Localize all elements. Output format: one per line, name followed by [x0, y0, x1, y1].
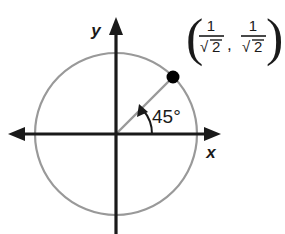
coordinate-separator: , [227, 35, 232, 54]
x-numerator: 1 [207, 17, 215, 34]
unit-circle-figure: y x 45° ( 1 √ 2 , 1 √ 2 ) [0, 0, 285, 234]
coordinate-close-paren: ) [266, 9, 283, 67]
y-numerator: 1 [249, 17, 257, 34]
y-axis-up-arrowhead [109, 17, 123, 35]
coordinate-label: ( 1 √ 2 , 1 √ 2 ) [186, 9, 283, 67]
x-axis-label: x [205, 143, 217, 162]
x-denominator-radical: √ [200, 38, 209, 55]
x-axis-left-arrowhead [8, 127, 25, 141]
x-axis-right-arrowhead [204, 127, 221, 141]
terminal-point [167, 71, 180, 84]
y-axis-label: y [90, 21, 102, 40]
y-denominator-radical: √ [242, 38, 251, 55]
angle-label: 45° [152, 106, 181, 127]
